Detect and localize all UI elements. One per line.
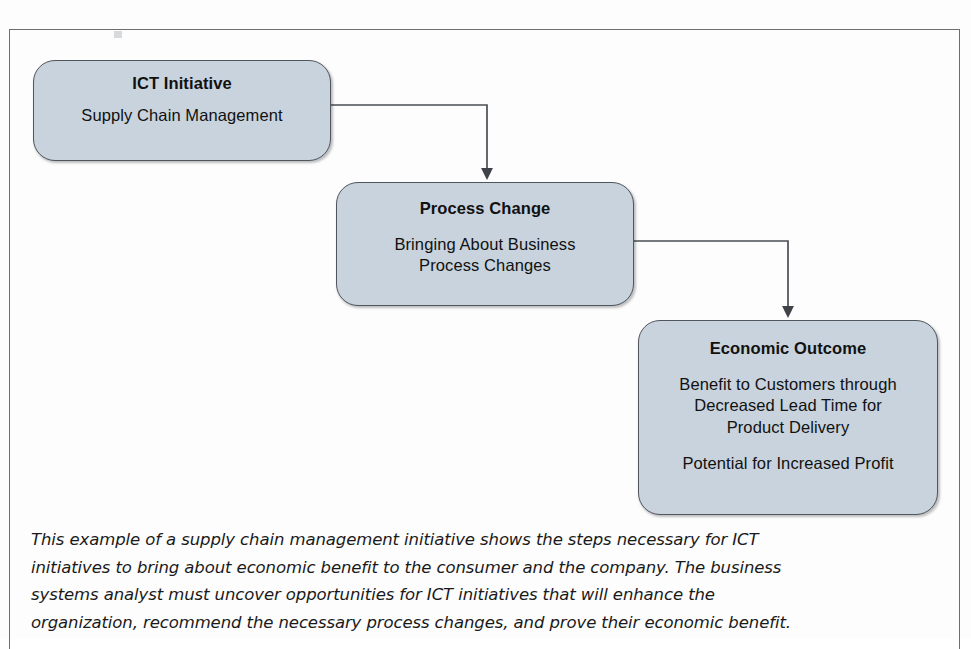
node-text-line: Decreased Lead Time for bbox=[694, 395, 882, 416]
node-title-ict-initiative: ICT Initiative bbox=[132, 74, 232, 93]
node-economic-outcome[interactable]: Economic Outcome Benefit to Customers th… bbox=[638, 320, 938, 515]
node-text-line: Potential for Increased Profit bbox=[682, 453, 893, 474]
node-title-economic-outcome: Economic Outcome bbox=[710, 339, 867, 358]
node-text-line: Process Changes bbox=[419, 255, 551, 276]
figure-caption: This example of a supply chain managemen… bbox=[31, 526, 931, 636]
node-text-line: Bringing About Business bbox=[394, 234, 575, 255]
caption-line: This example of a supply chain managemen… bbox=[31, 526, 931, 554]
node-title-process-change: Process Change bbox=[420, 199, 551, 218]
node-body-ict-initiative: Supply Chain Management bbox=[81, 105, 282, 126]
scan-artifact-speck bbox=[114, 31, 122, 38]
caption-line: initiatives to bring about economic bene… bbox=[31, 554, 931, 582]
node-text-line: Supply Chain Management bbox=[81, 105, 282, 126]
node-body-process-change: Bringing About Business Process Changes bbox=[394, 234, 575, 277]
node-body-economic-outcome: Benefit to Customers through Decreased L… bbox=[679, 374, 896, 475]
caption-line: systems analyst must uncover opportuniti… bbox=[31, 581, 931, 609]
node-process-change[interactable]: Process Change Bringing About Business P… bbox=[336, 182, 634, 306]
caption-line: organization, recommend the necessary pr… bbox=[31, 609, 931, 637]
node-text-line: Benefit to Customers through bbox=[679, 374, 896, 395]
node-ict-initiative[interactable]: ICT Initiative Supply Chain Management bbox=[33, 60, 331, 161]
node-text-line: Product Delivery bbox=[727, 417, 850, 438]
